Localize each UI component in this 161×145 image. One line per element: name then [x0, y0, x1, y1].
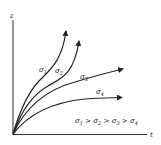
label-sigma4: σ4 — [96, 88, 104, 97]
label-sigma2: σ2 — [55, 67, 63, 76]
label-sigma3: σ3 — [80, 73, 88, 82]
x-axis-label: t — [150, 131, 153, 139]
curve-sigma2 — [13, 41, 79, 134]
curve-sigma1 — [13, 31, 66, 134]
y-axis-label: ε — [10, 12, 14, 20]
creep-diagram: ε t σ1 σ2 σ3 σ4 σ1 > σ2 > σ3 > σ4 — [0, 0, 161, 145]
stress-relation: σ1 > σ2 > σ3 > σ4 — [75, 117, 138, 127]
label-sigma1: σ1 — [39, 66, 47, 75]
